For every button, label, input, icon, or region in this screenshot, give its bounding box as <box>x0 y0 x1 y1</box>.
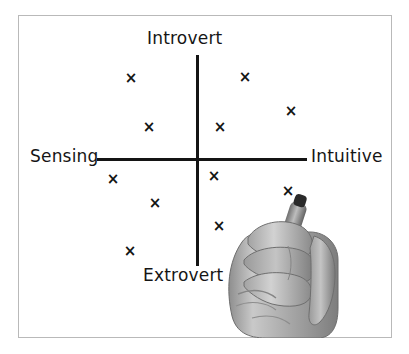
hand-with-marker-illustration <box>222 186 342 338</box>
axis-label-introvert: Introvert <box>147 30 222 47</box>
scatter-point-p3: × <box>237 69 253 85</box>
figure-canvas: Introvert Extrovert Sensing Intuitive ××… <box>0 0 409 354</box>
axis-label-extrovert: Extrovert <box>143 267 223 284</box>
scatter-point-p5: × <box>212 119 228 135</box>
scatter-point-p1: × <box>123 70 139 86</box>
axis-label-intuitive: Intuitive <box>311 148 383 165</box>
axis-label-sensing: Sensing <box>30 148 99 165</box>
scatter-point-p8: × <box>122 243 138 259</box>
scatter-point-p9: × <box>206 168 222 184</box>
hand-icon <box>222 186 342 338</box>
horizontal-axis-line <box>97 158 307 161</box>
scatter-point-p6: × <box>105 171 121 187</box>
scatter-point-p2: × <box>141 119 157 135</box>
vertical-axis-line <box>196 55 199 266</box>
scatter-point-p7: × <box>147 195 163 211</box>
scatter-point-p4: × <box>283 103 299 119</box>
